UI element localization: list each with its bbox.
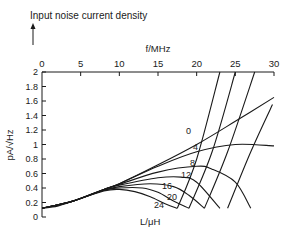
legend-title: L/μH (140, 216, 160, 227)
y-tick-label: 0.4 (25, 183, 38, 193)
x-tick-label: 5 (78, 58, 83, 69)
x-axis-label: f/MHz (146, 43, 171, 54)
y-tick-label: 1.4 (25, 111, 38, 121)
y-axis-label: pA/√Hz (4, 129, 15, 160)
curve-L-4 (42, 144, 274, 208)
resonance-branch (189, 72, 235, 208)
y-tick-label: 1.2 (25, 125, 38, 135)
curve-L-0 (42, 97, 274, 208)
y-tick-label: 0 (33, 212, 38, 222)
y-ticks: 00.20.40.60.811.21.41.61.82 (25, 67, 46, 222)
curve-label-0: 0 (186, 126, 191, 136)
y-tick-label: 1.6 (25, 96, 38, 106)
chart: Input noise current density f/MHz 051015… (0, 0, 287, 236)
curve-label-4: 4 (193, 142, 198, 152)
curve-label-12: 12 (181, 170, 191, 180)
y-tick-label: 1 (33, 140, 38, 150)
y-tick-label: 0.6 (25, 169, 38, 179)
chart-title: Input noise current density (30, 10, 147, 21)
x-tick-label: 10 (114, 58, 125, 69)
y-tick-label: 1.8 (25, 82, 38, 92)
y-tick-label: 0.8 (25, 154, 38, 164)
curve-label-24: 24 (154, 200, 164, 210)
y-tick-label: 0.2 (25, 198, 38, 208)
curves (42, 72, 274, 208)
x-ticks: 051015202530 (39, 58, 279, 76)
x-tick-label: 30 (269, 58, 280, 69)
curve-label-8: 8 (190, 158, 195, 168)
x-tick-label: 0 (39, 58, 44, 69)
resonance-branch (228, 105, 273, 209)
y-tick-label: 2 (33, 67, 38, 77)
up-arrow-icon (31, 23, 36, 45)
x-tick-label: 25 (230, 58, 241, 69)
x-tick-label: 20 (191, 58, 202, 69)
x-tick-label: 15 (153, 58, 164, 69)
curve-label-16: 16 (162, 181, 172, 191)
curve-L-12 (42, 177, 220, 209)
curve-label-20: 20 (167, 192, 177, 202)
